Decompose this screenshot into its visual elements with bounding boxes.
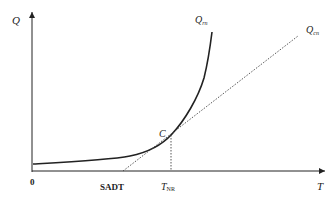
qcn-label: Qcn bbox=[306, 24, 319, 36]
heat-generation-curve bbox=[33, 32, 212, 164]
heat-removal-line bbox=[123, 36, 298, 171]
x-axis-label: T bbox=[317, 180, 324, 192]
sadt-label: SADT bbox=[100, 182, 124, 192]
semenov-diagram: Q T 0 Qrn Qcn C SADT TNR bbox=[0, 0, 331, 199]
origin-label: 0 bbox=[30, 177, 35, 187]
qrn-label: Qrn bbox=[195, 14, 208, 26]
y-axis-label: Q bbox=[12, 14, 20, 26]
tangent-point-label: C bbox=[159, 128, 166, 139]
tnr-label: TNR bbox=[161, 181, 175, 192]
